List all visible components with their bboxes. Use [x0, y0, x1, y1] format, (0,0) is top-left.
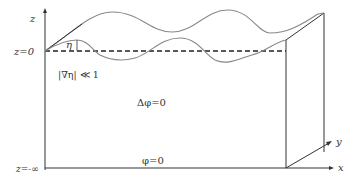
- wave-domain-diagram: z z=0 z=-∞ η |∇η| ≪ 1 Δφ=0 φ=0 x y: [0, 0, 359, 179]
- back-wave-surface: [45, 10, 324, 51]
- left-depth-edge: [45, 24, 82, 51]
- z-bottom-label: z=-∞: [15, 164, 39, 174]
- top-depth-edge: [286, 13, 324, 40]
- laplace-equation-label: Δφ=0: [137, 97, 166, 108]
- eta-label: η: [66, 39, 72, 50]
- y-axis: [286, 143, 329, 168]
- z-zero-label: z=0: [13, 46, 35, 57]
- bottom-condition-label: φ=0: [142, 155, 164, 166]
- z-axis-arrow-icon: [43, 8, 47, 13]
- z-axis-label: z: [29, 13, 36, 24]
- slope-condition-label: |∇η| ≪ 1: [58, 69, 99, 81]
- front-wave-surface: [45, 38, 286, 62]
- x-axis-arrow-icon: [329, 166, 334, 170]
- y-axis-arrow-icon: [326, 141, 332, 146]
- x-axis-label: x: [338, 162, 344, 173]
- y-axis-label: y: [335, 136, 342, 147]
